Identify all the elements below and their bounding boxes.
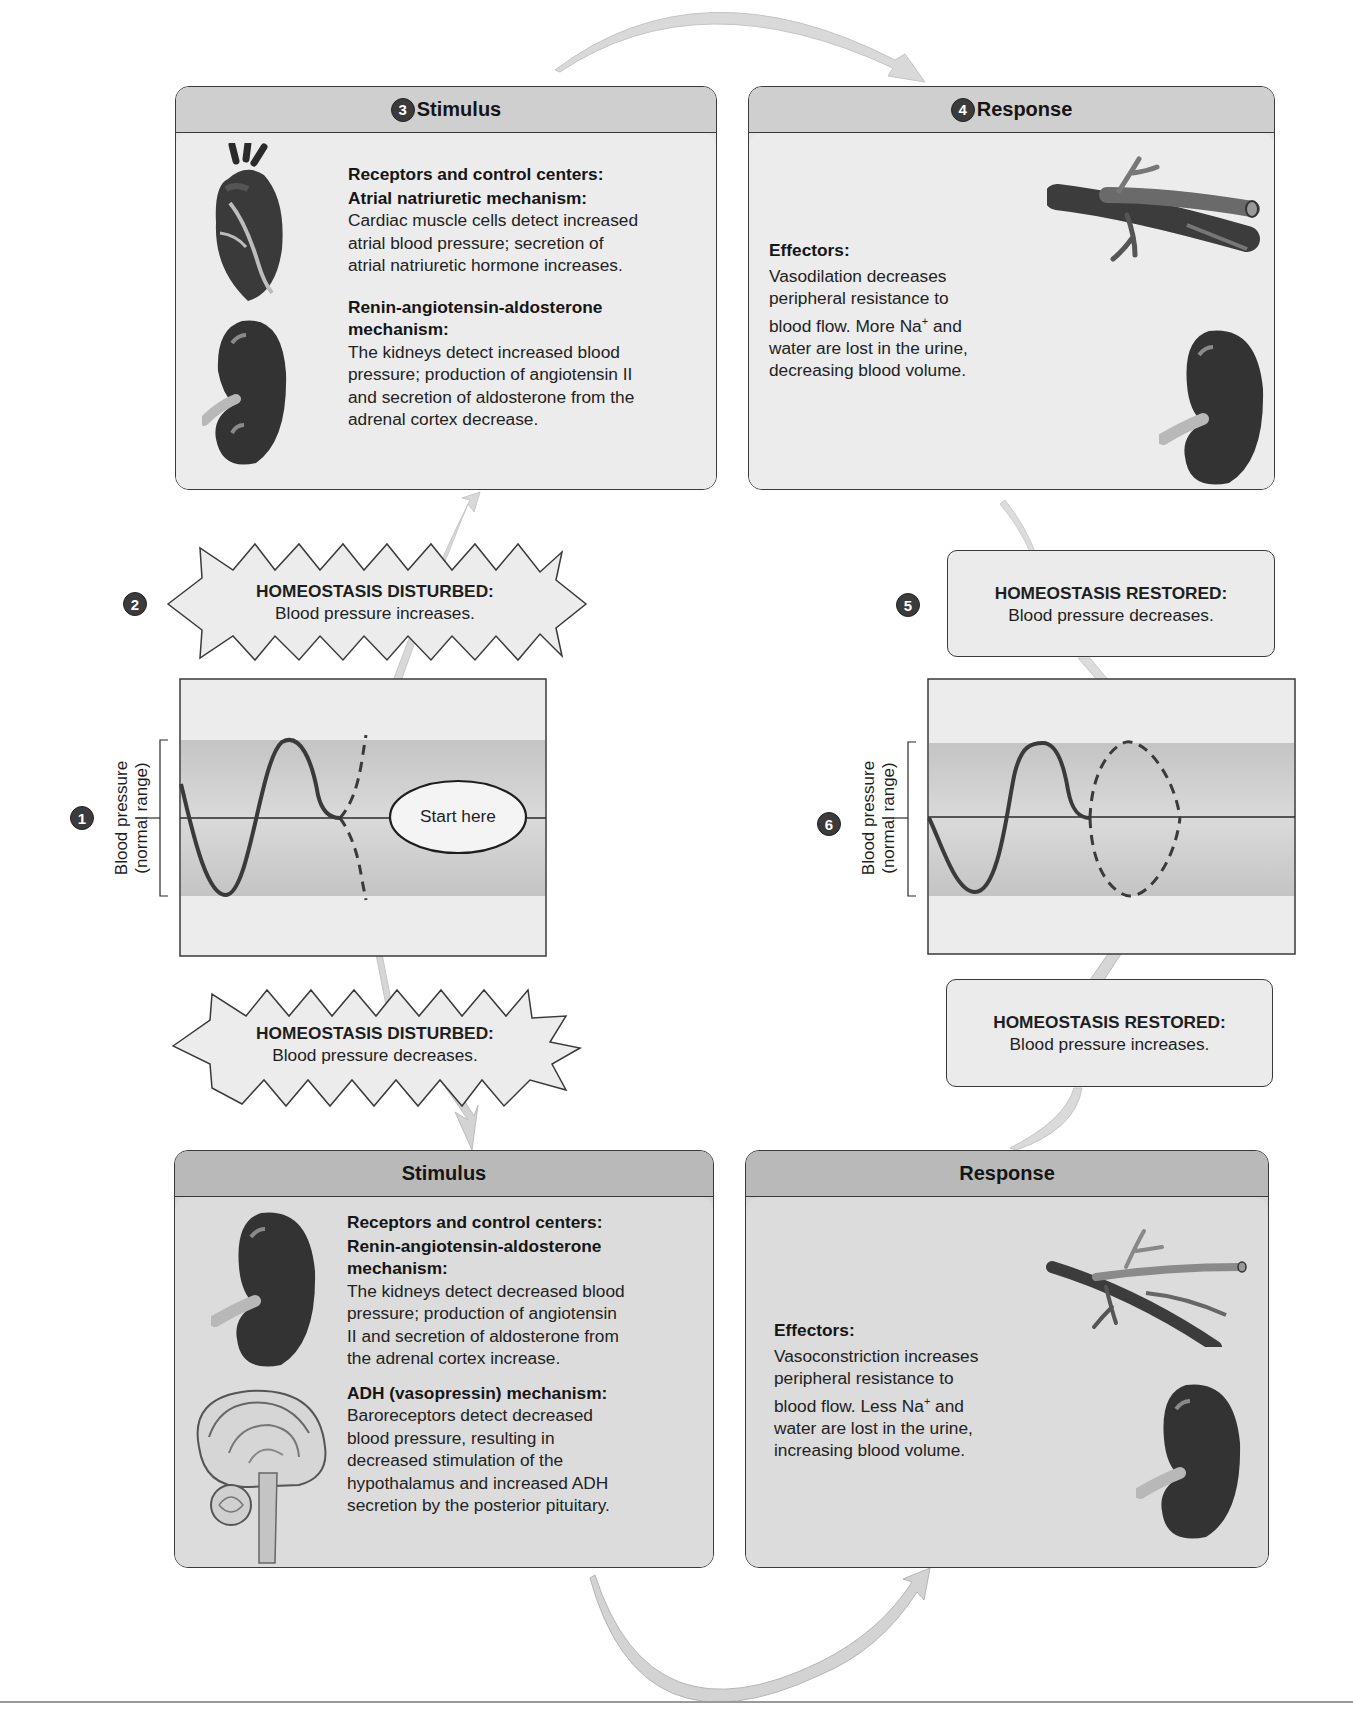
restored-increase-message: Blood pressure increases. xyxy=(947,1033,1272,1055)
text-line: secretion by the posterior pituitary. xyxy=(347,1494,707,1517)
kidney-icon xyxy=(211,1205,321,1375)
right-graph-axis-label: Blood pressure (normal range) xyxy=(859,740,899,896)
text-segment: and xyxy=(930,1395,964,1415)
bottom-divider xyxy=(0,1701,1353,1703)
bottom-response-header: Response xyxy=(746,1151,1268,1197)
text-line: hypothalamus and increased ADH xyxy=(347,1472,707,1495)
text-line: pressure; production of angiotensin xyxy=(347,1302,707,1325)
normal-range-band xyxy=(929,743,1294,896)
raas-mechanism-title-1: Renin-angiotensin-aldosterone xyxy=(347,1235,707,1258)
axis-label-line: Blood pressure xyxy=(112,740,132,896)
text-line: increasing blood volume. xyxy=(774,1439,1074,1462)
restored-decrease-box: HOMEOSTASIS RESTORED: Blood pressure dec… xyxy=(947,550,1275,657)
adh-mechanism-title: ADH (vasopressin) mechanism: xyxy=(347,1382,707,1405)
effectors-heading: Effectors: xyxy=(774,1319,1074,1342)
step-5-badge: 5 xyxy=(896,593,920,617)
restored-increase-box: HOMEOSTASIS RESTORED: Blood pressure inc… xyxy=(946,979,1273,1087)
bottom-response-title: Response xyxy=(959,1162,1055,1185)
axis-bracket xyxy=(908,742,916,896)
text-line: peripheral resistance to xyxy=(774,1367,1074,1390)
brain-icon xyxy=(179,1377,329,1567)
text-line: Baroreceptors detect decreased xyxy=(347,1404,707,1427)
bottom-response-panel: Response Effectors: Vasoconstriction inc… xyxy=(745,1150,1269,1568)
step-1-badge: 1 xyxy=(70,806,94,830)
text-line: II and secretion of aldosterone from xyxy=(347,1325,707,1348)
text-line: the adrenal cortex increase. xyxy=(347,1347,707,1370)
raas-mechanism-title-2: mechanism: xyxy=(347,1257,707,1280)
bottom-stimulus-body: Receptors and control centers: Renin-ang… xyxy=(175,1197,713,1567)
kidney-icon xyxy=(1136,1377,1246,1547)
bottom-response-body: Effectors: Vasoconstriction increases pe… xyxy=(746,1197,1268,1567)
step-6-badge: 6 xyxy=(817,812,841,836)
axis-label-line: (normal range) xyxy=(879,740,899,896)
axis-bracket xyxy=(160,740,168,896)
restored-decrease-heading: HOMEOSTASIS RESTORED: xyxy=(948,582,1274,604)
text-line: The kidneys detect decreased blood xyxy=(347,1280,707,1303)
restored-decrease-message: Blood pressure decreases. xyxy=(948,604,1274,626)
right-bp-graph xyxy=(893,679,1295,954)
text-line: decreased stimulation of the xyxy=(347,1449,707,1472)
text-segment: blood flow. Less Na xyxy=(774,1395,924,1415)
axis-label-line: Blood pressure xyxy=(859,740,879,896)
axis-label-line: (normal range) xyxy=(132,740,152,896)
text-line: blood pressure, resulting in xyxy=(347,1427,707,1450)
text-line: blood flow. Less Na+ and xyxy=(774,1390,1074,1417)
bottom-stimulus-header: Stimulus xyxy=(175,1151,713,1197)
left-graph-axis-label: Blood pressure (normal range) xyxy=(112,740,152,896)
bottom-stimulus-text: Receptors and control centers: Renin-ang… xyxy=(347,1211,707,1517)
bottom-response-text: Effectors: Vasoconstriction increases pe… xyxy=(774,1319,1074,1462)
text-line: water are lost in the urine, xyxy=(774,1417,1074,1440)
restored-increase-heading: HOMEOSTASIS RESTORED: xyxy=(947,1011,1272,1033)
start-here-label: Start here xyxy=(392,806,524,827)
text-line: Vasoconstriction increases xyxy=(774,1345,1074,1368)
bottom-stimulus-heading: Receptors and control centers: xyxy=(347,1211,707,1234)
bottom-stimulus-panel: Stimulus Receptors and control centers: … xyxy=(174,1150,714,1568)
bottom-stimulus-title: Stimulus xyxy=(402,1162,486,1185)
